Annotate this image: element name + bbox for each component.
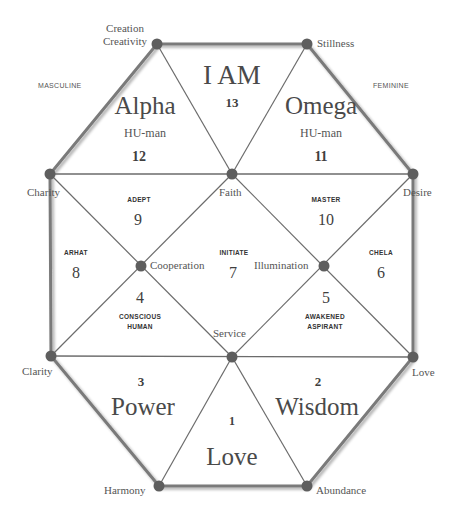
- vertex-label-charity: Charity: [27, 186, 60, 198]
- region-5-stage: AWAKENED ASPIRANT: [305, 312, 345, 332]
- vertex-label-clarity: Clarity: [22, 365, 53, 377]
- feminine-label: FEMININE: [373, 82, 409, 89]
- region-13-name: I AM: [203, 60, 261, 91]
- node-clarity: [46, 351, 57, 362]
- region-13-number: 13: [226, 95, 239, 111]
- node-cooperation: [136, 261, 147, 272]
- region-8-number: 8: [72, 264, 80, 282]
- region-11-number: 11: [314, 149, 327, 165]
- region-5-stage-line1: AWAKENED: [305, 312, 345, 322]
- region-7-stage: INITIATE: [220, 248, 249, 258]
- region-6-stage: CHELA: [369, 248, 393, 258]
- vertex-label-stillness: Stillness: [317, 37, 354, 49]
- node-stillness: [302, 39, 313, 50]
- region-9-stage: ADEPT: [127, 195, 151, 205]
- vertex-label-cooperation: Cooperation: [150, 259, 204, 271]
- region-2-number: 2: [315, 374, 322, 390]
- region-5-stage-line2: ASPIRANT: [305, 322, 345, 332]
- region-5-number: 5: [322, 289, 330, 307]
- masculine-label: MASCULINE: [38, 82, 82, 89]
- vertex-label-creation-line1: Creation: [100, 22, 150, 35]
- vertex-label-service: Service: [213, 327, 246, 339]
- region-10-number: 10: [318, 211, 334, 229]
- region-4-number: 4: [136, 289, 144, 307]
- vertex-label-abundance: Abundance: [316, 484, 366, 496]
- region-11-sub: HU-man: [300, 126, 342, 141]
- region-1-number: 1: [229, 414, 235, 429]
- region-11-name: Omega: [285, 92, 357, 120]
- region-7-number: 7: [229, 264, 237, 282]
- vertex-label-faith: Faith: [219, 186, 242, 198]
- region-4-stage: CONSCIOUS HUMAN: [119, 312, 161, 332]
- vertex-label-illumination: Illumination: [254, 259, 308, 271]
- vertex-label-creation: Creation Creativity: [100, 22, 150, 48]
- vertex-label-harmony: Harmony: [104, 484, 146, 496]
- node-abundance: [302, 481, 313, 492]
- region-10-stage: MASTER: [311, 195, 340, 205]
- region-6-number: 6: [377, 264, 385, 282]
- region-3-name: Power: [111, 393, 175, 421]
- region-12-sub: HU-man: [124, 126, 166, 141]
- node-desire: [408, 169, 419, 180]
- node-service: [227, 352, 238, 363]
- node-faith: [227, 169, 238, 180]
- node-harmony: [154, 481, 165, 492]
- region-4-stage-line2: HUMAN: [119, 322, 161, 332]
- region-8-stage: ARHAT: [64, 248, 88, 258]
- vertex-label-love: Love: [412, 366, 435, 378]
- region-4-stage-line1: CONSCIOUS: [119, 312, 161, 322]
- node-charity: [45, 169, 56, 180]
- vertex-label-creation-line2: Creativity: [100, 35, 150, 48]
- node-illumination: [319, 261, 330, 272]
- region-3-number: 3: [138, 374, 145, 390]
- vertex-label-desire: Desire: [403, 186, 432, 198]
- region-12-number: 12: [132, 149, 146, 165]
- region-2-name: Wisdom: [275, 393, 359, 421]
- region-1-name: Love: [206, 443, 257, 471]
- region-9-number: 9: [134, 211, 142, 229]
- node-love: [408, 352, 419, 363]
- node-creation: [152, 39, 163, 50]
- region-12-name: Alpha: [114, 92, 175, 120]
